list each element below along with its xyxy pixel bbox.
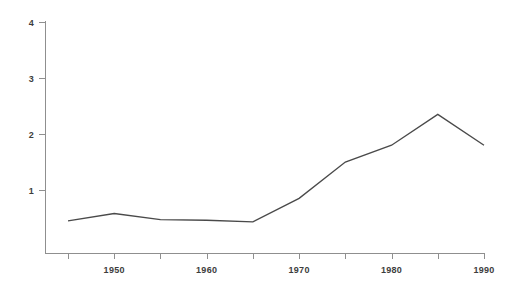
x-tick-label: 1950	[104, 265, 125, 275]
x-tick-marks	[69, 254, 485, 260]
axes-group	[46, 21, 485, 254]
plot-area	[0, 0, 513, 295]
y-tick-label: 1	[14, 186, 34, 196]
y-tick-label: 3	[14, 74, 34, 84]
x-tick-label: 1980	[381, 265, 402, 275]
y-tick-marks	[39, 23, 46, 191]
y-tick-label: 4	[14, 18, 34, 28]
x-tick-label: 1990	[473, 265, 494, 275]
line-chart: 1234 19501960197019801990	[0, 0, 513, 295]
x-tick-label: 1960	[196, 265, 217, 275]
x-tick-label: 1970	[288, 265, 309, 275]
data-series-line	[68, 114, 484, 222]
y-tick-label: 2	[14, 130, 34, 140]
